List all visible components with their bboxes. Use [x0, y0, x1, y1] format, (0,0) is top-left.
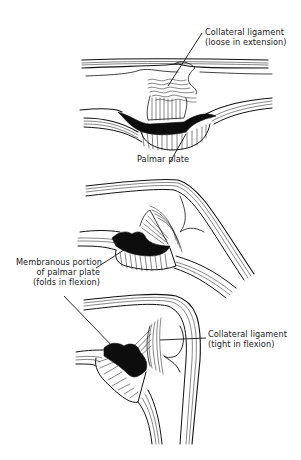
label-collateral-ligament-tight: Collateral ligament (tight in flexion) [208, 329, 287, 349]
panel-extension [80, 33, 272, 162]
label-collateral-ligament-loose: Collateral ligament (loose in extension) [205, 27, 287, 47]
label-line: Palmar plate [137, 154, 189, 164]
panel-mid-flexion [78, 179, 254, 298]
leader-membranous-portion-lower [64, 296, 116, 350]
label-line: (loose in extension) [205, 37, 287, 47]
label-membranous-portion: Membranous portion of palmar plate (fold… [16, 257, 100, 287]
panel-full-flexion [64, 294, 206, 444]
label-line: Membranous portion [16, 257, 100, 267]
leader-collateral-loose [168, 33, 202, 86]
leader-collateral-tight [160, 338, 206, 340]
label-line: Collateral ligament [205, 27, 287, 37]
label-palmar-plate: Membranous portion Palmar plate [137, 154, 189, 164]
joint-ligament-diagram: Collateral ligament (loose in extension)… [0, 0, 301, 460]
label-line: (tight in flexion) [208, 339, 287, 349]
label-line: (folds in flexion) [16, 277, 100, 287]
label-line: of palmar plate [16, 267, 100, 277]
label-line: Collateral ligament [208, 329, 287, 339]
